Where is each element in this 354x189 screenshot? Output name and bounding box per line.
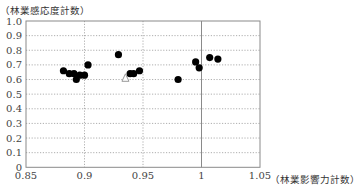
data-point-circle (196, 64, 203, 71)
data-point-circle (81, 72, 88, 79)
data-point-circle (206, 54, 213, 61)
data-point-circle (84, 61, 91, 68)
x-tick-label: 0.85 (15, 170, 37, 181)
y-tick-label: 0.9 (6, 30, 22, 41)
gridlines (26, 21, 260, 167)
y-tick-label: 0.6 (6, 74, 22, 85)
data-point-circle (136, 67, 143, 74)
data-point-circle (214, 55, 221, 62)
y-tick-label: 0.2 (6, 133, 22, 144)
x-tick-label: 1.05 (249, 170, 271, 181)
y-tick-label: 0.7 (6, 59, 22, 70)
x-tick-label: 1 (198, 170, 204, 181)
scatter-chart: 00.10.20.30.40.50.60.70.80.91.00.850.90.… (0, 0, 354, 189)
y-tick-label: 0.1 (6, 147, 22, 158)
y-tick-label: 0.3 (6, 118, 22, 129)
x-tick-label: 0.95 (132, 170, 154, 181)
data-point-circle (115, 51, 122, 58)
data-point-circle (175, 76, 182, 83)
x-tick-label: 0.9 (77, 170, 93, 181)
tick-labels: 00.10.20.30.40.50.60.70.80.91.00.850.90.… (6, 16, 271, 182)
y-tick-label: 0.8 (6, 45, 22, 56)
y-tick-label: 1.0 (6, 16, 22, 27)
y-tick-label: 0.4 (6, 103, 22, 114)
y-tick-label: 0.5 (6, 89, 22, 100)
data-points (60, 51, 222, 83)
